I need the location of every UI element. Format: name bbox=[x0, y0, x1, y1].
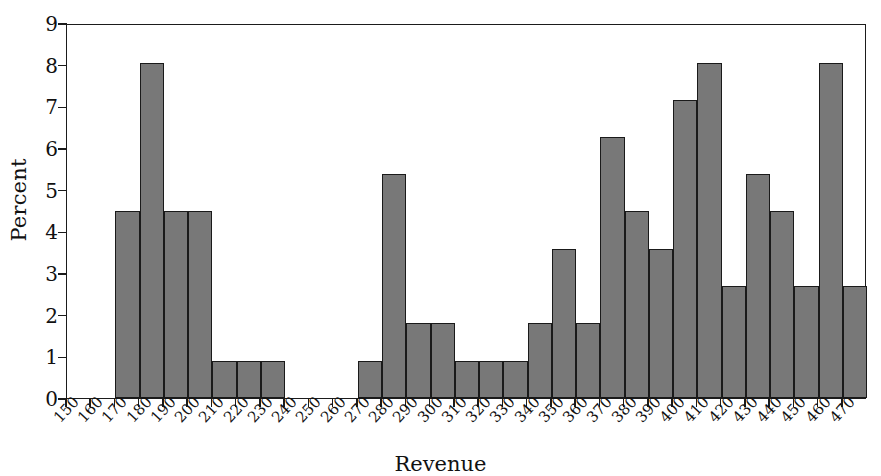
x-axis-title: Revenue bbox=[0, 452, 881, 476]
plot-area bbox=[66, 24, 866, 399]
histogram-bar bbox=[237, 361, 261, 399]
histogram-bar bbox=[552, 249, 576, 398]
histogram-bar bbox=[722, 286, 746, 398]
y-tick-label: 0 bbox=[30, 389, 58, 409]
histogram-bar bbox=[600, 137, 624, 398]
y-tick-label: 3 bbox=[30, 264, 58, 284]
histogram-bar bbox=[673, 100, 697, 398]
y-tick-label: 8 bbox=[30, 56, 58, 76]
histogram-bar bbox=[649, 249, 673, 398]
y-tick-label: 5 bbox=[30, 181, 58, 201]
histogram-bar bbox=[261, 361, 285, 399]
histogram-bar bbox=[625, 211, 649, 398]
histogram-bar bbox=[164, 211, 188, 398]
histogram-bar bbox=[455, 361, 479, 399]
y-tick-label: 6 bbox=[30, 139, 58, 159]
y-axis-title-text: Percent bbox=[7, 158, 31, 241]
histogram-bar bbox=[503, 361, 527, 399]
histogram-bar bbox=[431, 323, 455, 398]
histogram-bar bbox=[382, 174, 406, 398]
y-tick-label: 1 bbox=[30, 347, 58, 367]
y-tick-label: 4 bbox=[30, 222, 58, 242]
x-axis-tick-labels: 1501601701801902002102202302402502602702… bbox=[0, 408, 881, 452]
histogram-bar bbox=[843, 286, 867, 398]
histogram-bars bbox=[67, 25, 865, 398]
histogram-bar bbox=[115, 211, 139, 398]
histogram-bar bbox=[188, 211, 212, 398]
y-axis-tick-labels: 0123456789 bbox=[30, 0, 58, 476]
y-tick-label: 9 bbox=[30, 14, 58, 34]
histogram-bar bbox=[697, 63, 721, 398]
histogram-bar bbox=[746, 174, 770, 398]
y-tick-label: 7 bbox=[30, 97, 58, 117]
histogram-chart: Percent 0123456789 150160170180190200210… bbox=[0, 0, 881, 476]
histogram-bar bbox=[140, 63, 164, 398]
histogram-bar bbox=[794, 286, 818, 398]
y-tick-label: 2 bbox=[30, 306, 58, 326]
histogram-bar bbox=[770, 211, 794, 398]
histogram-bar bbox=[819, 63, 843, 398]
histogram-bar bbox=[406, 323, 430, 398]
histogram-bar bbox=[479, 361, 503, 399]
histogram-bar bbox=[528, 323, 552, 398]
histogram-bar bbox=[212, 361, 236, 399]
histogram-bar bbox=[358, 361, 382, 399]
histogram-bar bbox=[576, 323, 600, 398]
